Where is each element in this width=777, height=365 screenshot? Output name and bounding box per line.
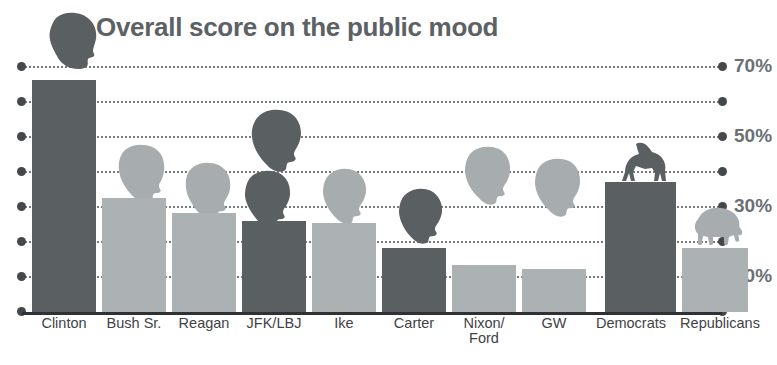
bar-bush-sr[interactable]: [102, 198, 166, 312]
gw-silhouette-icon: [530, 156, 588, 218]
carter-silhouette-icon: [394, 186, 450, 244]
ike-silhouette-icon: [318, 166, 374, 224]
chart-title: Overall score on the public mood: [96, 12, 498, 43]
gridline-40: [22, 171, 722, 173]
tick-dot-right-30: [718, 202, 727, 211]
tick-dot-left-70: [17, 62, 26, 71]
plot-area: 70% 50% 30% 10%: [22, 60, 722, 312]
tick-dot-right-50: [718, 132, 727, 141]
clinton-silhouette-icon: [42, 12, 104, 74]
donkey-icon: [620, 142, 676, 186]
bar-republicans[interactable]: [682, 248, 748, 312]
gridline-60: [22, 101, 722, 103]
bar-clinton[interactable]: [32, 80, 96, 312]
tick-dot-left-20: [17, 237, 26, 246]
xlabel-clinton: Clinton: [26, 316, 102, 331]
xlabel-gw: GW: [516, 316, 592, 331]
bar-nixon-ford[interactable]: [452, 265, 516, 312]
tick-dot-right-40: [718, 167, 727, 176]
bar-gw[interactable]: [522, 269, 586, 312]
x-axis-labels: Clinton Bush Sr. Reagan JFK/LBJ Ike Cart…: [22, 316, 722, 360]
bar-ike[interactable]: [312, 223, 376, 312]
bar-democrats[interactable]: [605, 182, 676, 312]
ytick-label-50: 50%: [734, 125, 772, 147]
xlabel-bush-sr: Bush Sr.: [96, 316, 172, 331]
gridline-50: [22, 136, 722, 138]
bar-jfk-lbj[interactable]: [242, 221, 306, 312]
nixon-ford-silhouette-icon: [460, 144, 518, 206]
ytick-label-30: 30%: [734, 195, 772, 217]
ytick-label-70: 70%: [734, 55, 772, 77]
tick-dot-left-10: [17, 272, 26, 281]
xlabel-republicans: Republicans: [670, 316, 770, 331]
jfk-lbj-silhouette-icon-2: [240, 168, 298, 228]
tick-dot-left-30: [17, 202, 26, 211]
tick-dot-right-70: [718, 62, 727, 71]
bush-sr-silhouette-icon: [112, 142, 172, 204]
xlabel-ike: Ike: [306, 316, 382, 331]
xlabel-jfk-lbj: JFK/LBJ: [236, 316, 312, 331]
xlabel-reagan: Reagan: [166, 316, 242, 331]
xlabel-carter: Carter: [376, 316, 452, 331]
chart-root: Overall score on the public mood 70% 50%…: [0, 0, 777, 365]
tick-dot-right-60: [718, 97, 727, 106]
xlabel-nixon-ford: Nixon/ Ford: [446, 316, 522, 346]
tick-dot-left-50: [17, 132, 26, 141]
bar-carter[interactable]: [382, 248, 446, 312]
jfk-lbj-silhouette-icon: [246, 108, 308, 172]
tick-dot-left-60: [17, 97, 26, 106]
bar-reagan[interactable]: [172, 213, 236, 312]
xlabel-democrats: Democrats: [584, 316, 678, 331]
tick-dot-right-20: [718, 237, 727, 246]
gridline-70: [22, 66, 722, 68]
reagan-silhouette-icon: [180, 160, 238, 220]
tick-dot-left-40: [17, 167, 26, 176]
